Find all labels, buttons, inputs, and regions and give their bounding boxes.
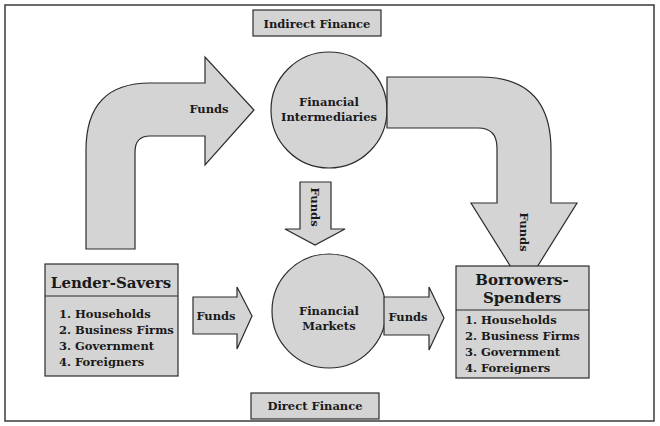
borrower-item: 1. Households — [465, 313, 557, 327]
svg-text:Funds: Funds — [308, 187, 322, 226]
svg-text:Lender-Savers: Lender-Savers — [51, 274, 171, 292]
indirect-finance-label: Indirect Finance — [253, 10, 381, 36]
borrower-item: 4. Foreigners — [465, 361, 550, 375]
svg-text:Indirect Finance: Indirect Finance — [264, 17, 371, 31]
svg-text:Funds: Funds — [388, 310, 427, 324]
flow-of-funds-diagram: Indirect Finance Funds Financial Interme… — [0, 0, 660, 426]
borrower-item: 3. Government — [465, 345, 561, 359]
svg-text:Intermediaries: Intermediaries — [281, 110, 377, 124]
svg-text:Funds: Funds — [189, 102, 228, 116]
borrowers-spenders-box: Borrowers- Spenders 1. Households 2. Bus… — [456, 266, 589, 378]
svg-text:Funds: Funds — [517, 212, 531, 251]
svg-text:Spenders: Spenders — [483, 289, 561, 307]
svg-text:Markets: Markets — [302, 319, 355, 333]
svg-text:Borrowers-: Borrowers- — [475, 271, 569, 289]
svg-text:Financial: Financial — [299, 304, 360, 318]
svg-text:Financial: Financial — [299, 95, 360, 109]
lender-item: 4. Foreigners — [59, 355, 144, 369]
direct-finance-label: Direct Finance — [251, 393, 379, 419]
financial-markets-node: Financial Markets — [272, 254, 386, 368]
financial-intermediaries-node: Financial Intermediaries — [271, 52, 387, 168]
svg-text:Funds: Funds — [196, 309, 235, 323]
lender-savers-box: Lender-Savers 1. Households 2. Business … — [45, 264, 178, 376]
lender-item: 3. Government — [59, 339, 155, 353]
lender-item: 2. Business Firms — [59, 323, 174, 337]
lender-item: 1. Households — [59, 307, 151, 321]
svg-text:Direct Finance: Direct Finance — [267, 399, 362, 413]
borrower-item: 2. Business Firms — [465, 329, 580, 343]
